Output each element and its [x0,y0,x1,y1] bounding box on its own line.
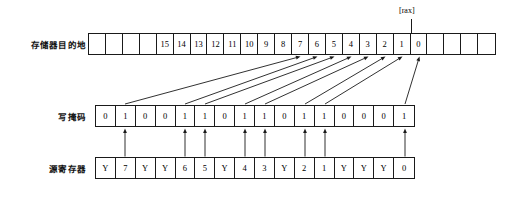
mask-cell: 0 [156,106,176,126]
rax-pointer-tick [411,19,412,33]
memory-cell: 4 [343,34,360,54]
memory-cell [89,34,106,54]
memory-cell [140,34,157,54]
mask-cell: 0 [354,106,374,126]
memory-destination-row: 1514131211109876543210 [88,33,496,55]
vertical-arrow-head [303,129,307,134]
source-cell: Y [96,158,116,178]
mask-cell: 0 [136,106,156,126]
mask-cell: 1 [195,106,215,126]
memory-row-label: 存储器目的地 [6,38,86,50]
rax-pointer-label: [rax] [399,6,415,15]
source-cell: Y [156,158,176,178]
diagonal-arrow-head [364,57,369,61]
memory-cell [106,34,123,54]
diagonal-arrow-line [405,61,418,104]
memory-cell: 9 [258,34,275,54]
memory-cell: 5 [326,34,343,54]
source-cell: 3 [255,158,275,178]
memory-cell: 8 [275,34,292,54]
vertical-arrow-head [183,129,187,134]
mask-cell: 0 [215,106,235,126]
source-cell: Y [335,158,355,178]
memory-cell [461,34,478,54]
diagonal-arrow-line [325,59,399,104]
vertical-arrow-head [123,129,127,134]
memory-cell: 7 [292,34,309,54]
diagonal-arrow-line [265,58,365,104]
vertical-arrow-head [243,129,247,134]
memory-cell [478,34,495,54]
source-cell: Y [215,158,235,178]
mask-cell: 1 [394,106,414,126]
mask-cell: 1 [176,106,196,126]
write-mask-diagram: 存储器目的地 写掩码 源寄存器 1514131211109876543210 0… [0,0,508,200]
source-cell: 1 [315,158,335,178]
memory-cell: 10 [241,34,258,54]
memory-cell: 2 [377,34,394,54]
source-cell: 5 [195,158,215,178]
source-cell: 4 [235,158,255,178]
source-cell: Y [136,158,156,178]
source-cell: 6 [176,158,196,178]
diagonal-arrow-head [398,57,403,61]
mask-cell: 0 [335,106,355,126]
diagonal-arrow-head [416,57,420,62]
diagonal-arrow-line [185,58,314,104]
vertical-arrow-head [203,129,207,134]
source-cell: Y [275,158,295,178]
source-register-row: Y7YY65Y43Y21YYY0 [95,157,415,179]
mask-row-label: 写掩码 [6,110,86,122]
memory-cell [427,34,444,54]
source-cell: 0 [394,158,414,178]
mask-cell: 1 [295,106,315,126]
source-cell: Y [354,158,374,178]
diagonal-arrow-head [381,57,386,61]
source-row-label: 源寄存器 [6,162,86,174]
memory-cell: 6 [309,34,326,54]
diagonal-arrow-line [205,58,331,104]
write-mask-row: 0100110110110001 [95,105,415,127]
diagonal-arrow-line [125,58,296,104]
vertical-arrow-head [323,129,327,134]
mask-cell: 0 [96,106,116,126]
source-cell: 7 [116,158,136,178]
mask-cell: 1 [315,106,335,126]
diagonal-arrow-head [296,56,301,60]
diagonal-arrow-head [330,56,335,60]
mask-cell: 1 [255,106,275,126]
mask-cell: 1 [235,106,255,126]
diagonal-arrow-head [313,56,318,60]
mask-cell: 0 [374,106,394,126]
diagonal-arrow-line [305,59,382,104]
memory-cell [123,34,140,54]
vertical-arrow-head [403,129,407,134]
mask-cell: 1 [116,106,136,126]
diagonal-arrow-line [245,58,348,104]
memory-cell: 13 [191,34,208,54]
memory-cell: 3 [360,34,377,54]
memory-cell: 15 [157,34,174,54]
memory-cell: 14 [174,34,191,54]
source-cell: 2 [295,158,315,178]
diagonal-arrow-head [347,57,352,61]
vertical-arrow-head [263,129,267,134]
memory-cell: 1 [394,34,411,54]
memory-cell: 12 [207,34,224,54]
memory-cell [444,34,461,54]
source-cell: Y [374,158,394,178]
memory-cell: 11 [224,34,241,54]
memory-cell: 0 [411,34,428,54]
mask-cell: 0 [275,106,295,126]
